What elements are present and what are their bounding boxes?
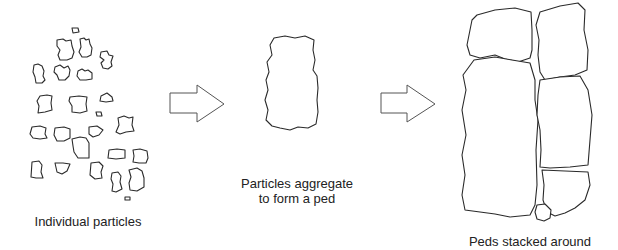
particle <box>90 162 103 179</box>
aggregated-ped <box>265 36 318 130</box>
particle <box>79 38 92 57</box>
particles-aggregate-label: Particles aggregate to form a ped <box>232 176 362 206</box>
particle <box>69 96 87 113</box>
particle <box>129 168 144 191</box>
particle <box>125 197 130 200</box>
particle <box>33 64 45 83</box>
arrow-1-icon <box>170 85 224 122</box>
particles-aggregate-line-2: to form a ped <box>232 191 362 206</box>
ped-middle-right <box>537 76 592 168</box>
particle <box>96 112 102 116</box>
particle <box>108 149 125 159</box>
particle <box>133 149 148 163</box>
particle <box>100 51 113 69</box>
peds-stacked-label: Peds stacked around <box>455 234 605 249</box>
ped-large-left <box>462 57 538 217</box>
particle <box>72 28 79 33</box>
particles-aggregate-line-1: Particles aggregate <box>232 176 362 191</box>
particle <box>54 127 70 141</box>
particle <box>31 161 43 178</box>
particle <box>116 116 134 134</box>
stacked-peds <box>462 3 592 221</box>
particle <box>100 93 113 102</box>
particle <box>55 163 70 174</box>
particle <box>30 126 47 139</box>
particle <box>54 65 70 80</box>
particle <box>57 39 74 60</box>
particle <box>111 172 122 192</box>
soil-structure-diagram <box>0 0 618 250</box>
particle <box>77 69 92 80</box>
arrow-2-icon <box>381 85 435 122</box>
individual-particles-label: Individual particles <box>28 214 148 229</box>
particle <box>72 137 89 158</box>
particle <box>89 126 103 137</box>
particle <box>37 95 52 113</box>
individual-particles-cluster <box>30 28 148 200</box>
ped-top-right <box>536 3 588 80</box>
ped-top-left <box>467 8 532 62</box>
